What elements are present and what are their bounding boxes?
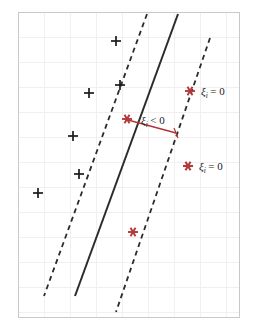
xi-subscript: i: [204, 166, 206, 175]
scatter-plot-svg: ξi< 0 ξi= 0 ξi= 0: [0, 0, 258, 333]
xi-subscript: i: [206, 91, 208, 100]
svm-margin-figure: ξi< 0 ξi= 0 ξi= 0: [0, 0, 258, 333]
xi-subscript: i: [146, 120, 148, 129]
xi-relation: = 0: [210, 85, 225, 97]
truncated-header-strip: [0, 0, 258, 7]
xi-relation: < 0: [150, 114, 165, 126]
xi-relation: = 0: [208, 160, 223, 172]
